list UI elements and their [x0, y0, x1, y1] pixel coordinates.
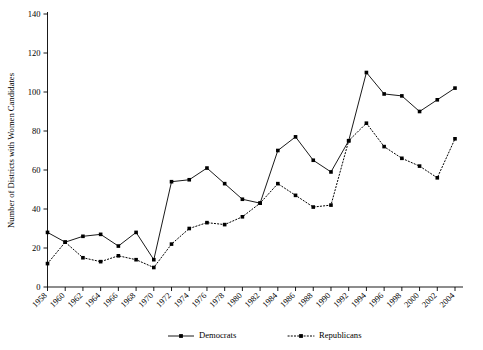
x-tick-label: 1988 [296, 290, 315, 309]
data-point-marker [205, 166, 209, 170]
x-tick-label: 1964 [83, 290, 103, 310]
x-tick-label: 1960 [48, 290, 67, 309]
y-tick-label: 140 [28, 9, 41, 19]
y-axis-ticks: 020406080100120140 [28, 9, 48, 292]
x-tick-label: 1992 [331, 290, 350, 309]
y-tick-label: 100 [28, 87, 41, 97]
x-tick-label: 1962 [65, 290, 84, 309]
series-democrats [46, 71, 457, 262]
x-tick-label: 1984 [260, 290, 280, 310]
data-point-marker [365, 71, 369, 75]
x-tick-label: 1998 [384, 290, 403, 309]
data-point-marker [152, 266, 156, 270]
x-tick-label: 1976 [189, 290, 208, 309]
data-point-marker [81, 235, 85, 239]
x-tick-label: 1996 [366, 290, 385, 309]
data-point-marker [258, 201, 262, 205]
data-point-marker [276, 182, 280, 186]
data-point-marker [63, 240, 67, 244]
y-tick-label: 80 [32, 126, 41, 136]
legend-label: Democrats [199, 330, 237, 340]
y-tick-label: 60 [32, 165, 41, 175]
x-axis-ticks: 1958196019621964196619681970197219741976… [30, 287, 457, 309]
x-tick-label: 1990 [313, 290, 332, 309]
y-axis-title-text: Number of Districts with Women Candidate… [6, 72, 16, 228]
x-tick-label: 1994 [349, 290, 369, 310]
data-point-marker [294, 135, 298, 139]
data-point-marker [99, 233, 103, 237]
x-tick-label: 2000 [402, 290, 421, 309]
data-point-marker [347, 139, 351, 143]
data-point-marker [187, 178, 191, 182]
x-tick-label: 1972 [154, 290, 173, 309]
data-point-marker [134, 231, 138, 235]
data-point-marker [294, 194, 298, 198]
x-tick-label: 1958 [30, 290, 49, 309]
data-point-marker [382, 92, 386, 96]
series-line [48, 73, 456, 260]
x-tick-label: 1978 [207, 290, 226, 309]
y-tick-label: 20 [32, 243, 41, 253]
chart-legend: DemocratsRepublicans [168, 330, 362, 340]
legend-marker-swatch [179, 334, 183, 338]
x-tick-label: 1980 [225, 290, 244, 309]
data-point-marker [311, 205, 315, 209]
x-tick-label: 1966 [101, 290, 120, 309]
series-line [48, 123, 456, 267]
data-point-marker [223, 223, 227, 227]
data-point-marker [311, 158, 315, 162]
data-point-marker [400, 94, 404, 98]
axes [48, 12, 464, 287]
x-tick-label: 1974 [172, 290, 192, 310]
data-point-marker [276, 149, 280, 153]
data-point-marker [170, 242, 174, 246]
data-point-marker [46, 231, 50, 235]
chart-container: 020406080100120140 195819601962196419661… [0, 0, 483, 350]
data-point-marker [241, 197, 245, 201]
data-point-marker [117, 254, 121, 258]
y-tick-label: 120 [28, 48, 41, 58]
data-point-marker [81, 256, 85, 260]
data-point-marker [382, 145, 386, 149]
line-chart: 020406080100120140 195819601962196419661… [0, 0, 483, 350]
series-republicans [46, 121, 457, 269]
data-point-marker [418, 110, 422, 114]
x-tick-label: 1970 [136, 290, 155, 309]
y-tick-label: 0 [36, 282, 40, 292]
data-point-marker [241, 215, 245, 219]
data-point-marker [117, 244, 121, 248]
x-tick-label: 2002 [420, 290, 439, 309]
y-axis-title: Number of Districts with Women Candidate… [6, 72, 16, 228]
data-point-marker [205, 221, 209, 225]
data-point-marker [435, 176, 439, 180]
data-point-marker [152, 258, 156, 262]
legend-marker-swatch [299, 334, 303, 338]
data-point-marker [365, 121, 369, 125]
data-point-marker [400, 157, 404, 161]
legend-item-democrats: Democrats [168, 330, 237, 340]
x-tick-label: 1968 [118, 290, 137, 309]
data-point-marker [329, 203, 333, 207]
data-point-marker [187, 227, 191, 231]
data-point-marker [418, 164, 422, 168]
data-point-marker [46, 262, 50, 266]
x-tick-label: 1982 [242, 290, 261, 309]
data-point-marker [134, 258, 138, 262]
legend-label: Republicans [319, 330, 362, 340]
data-point-marker [99, 260, 103, 264]
data-point-marker [329, 170, 333, 174]
data-point-marker [435, 98, 439, 102]
data-point-marker [453, 86, 457, 90]
data-point-marker [453, 137, 457, 141]
x-tick-label: 1986 [278, 290, 297, 309]
legend-item-republicans: Republicans [288, 330, 362, 340]
y-tick-label: 40 [32, 204, 41, 214]
data-point-marker [170, 180, 174, 184]
data-point-marker [223, 182, 227, 186]
x-tick-label: 2004 [437, 290, 457, 310]
data-series [46, 71, 457, 270]
